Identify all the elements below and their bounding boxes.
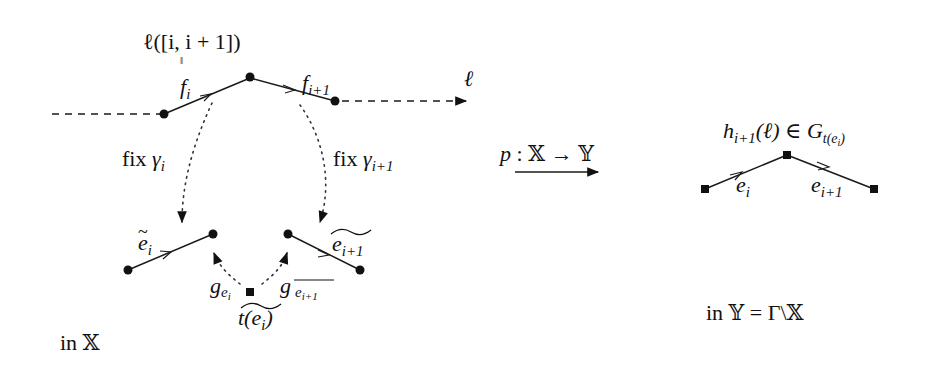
tilde-accent: ~	[138, 222, 148, 242]
quotient-graph-diagram: ℓ([i, i + 1]) ‖ fi fi+1 ℓ fix γi fix γi+…	[0, 0, 934, 370]
vertex-square	[246, 288, 254, 296]
lifted-edges: ei ~ ei+1	[124, 222, 372, 275]
fix-gamma-i-plus-1-arrow	[300, 105, 326, 222]
edge-orientation-chevron-icon	[817, 162, 829, 170]
label-fix-gamma-i: fix γi	[122, 146, 165, 174]
label-e-i: ei	[736, 172, 750, 200]
label-e-i-plus-1: ei+1	[811, 172, 843, 200]
segment-label: ℓ([i, i + 1])	[143, 29, 240, 54]
label-f-i-plus-1: fi+1	[302, 70, 330, 98]
vertex-square	[701, 185, 709, 193]
label-line-ell: ℓ	[464, 66, 474, 91]
vertex-dot	[124, 266, 133, 275]
vertex-square	[783, 151, 791, 159]
vertex-dot	[160, 110, 169, 119]
edge-f-i	[164, 78, 250, 114]
right-panel-quotient: hi+1(ℓ) ∈ Gt(ei) ei ei+1 in 𝕐 = Γ\𝕏	[701, 118, 878, 325]
label-t-e-tilde-i: t(ei)	[238, 305, 273, 333]
vertex-dot	[284, 230, 293, 239]
fix-gamma-i-arrow	[182, 103, 212, 222]
vertex-dot	[209, 230, 218, 239]
projection-map: p : 𝕏 → 𝕐	[498, 141, 598, 172]
vertex-dot	[246, 73, 255, 82]
equals-vertical: ‖	[180, 54, 183, 66]
caption-in-Y: in 𝕐 = Γ\𝕏	[706, 300, 805, 325]
vertex-dot	[331, 97, 340, 106]
caption-in-X: in 𝕏	[60, 330, 101, 355]
map-label: p : 𝕏 → 𝕐	[498, 141, 594, 166]
vertex-square	[870, 185, 878, 193]
label-f-i: fi	[180, 74, 190, 102]
vertex-dot	[356, 266, 365, 275]
label-h-in-G: hi+1(ℓ) ∈ Gt(ei)	[723, 118, 845, 148]
g-arrows: gei gei+1 t(ei)	[210, 253, 334, 333]
label-g-e-bar-i-plus-1: gei+1	[280, 273, 318, 302]
left-panel-line: ℓ([i, i + 1]) ‖ fi fi+1 ℓ	[52, 29, 474, 119]
label-g-e-i: gei	[210, 273, 231, 302]
label-fix-gamma-i-plus-1: fix γi+1	[333, 146, 393, 174]
fix-arrows: fix γi fix γi+1	[122, 103, 393, 222]
